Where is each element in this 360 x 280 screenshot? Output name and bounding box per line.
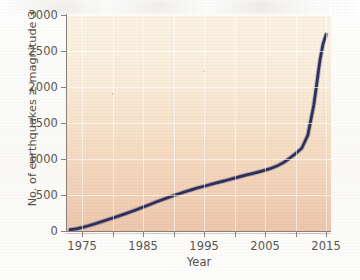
gridline-horizontal <box>67 123 331 124</box>
gridline-vertical <box>326 15 327 231</box>
gridline-horizontal <box>67 87 331 88</box>
x-axis-tick <box>113 232 114 237</box>
y-axis-tick <box>61 195 66 196</box>
gridline-vertical <box>143 15 144 231</box>
x-axis-tick <box>204 232 205 237</box>
gridline-vertical <box>82 15 83 231</box>
gridline-vertical <box>204 15 205 231</box>
x-axis-tick <box>296 232 297 237</box>
x-axis-tick <box>265 232 266 237</box>
gridline-vertical <box>265 15 266 231</box>
gridline-horizontal <box>67 15 331 16</box>
y-axis-tick <box>61 87 66 88</box>
x-axis-title: Year <box>139 255 259 269</box>
gridline-vertical <box>174 15 175 231</box>
x-axis-tick-label: 1995 <box>181 239 227 253</box>
gridline-vertical <box>296 15 297 231</box>
y-axis-title: No. of earthquakes ≥ magnitude 3 <box>26 0 39 219</box>
gridline-horizontal <box>67 195 331 196</box>
y-axis-tick-label: 0 <box>0 224 58 238</box>
x-axis-tick <box>235 232 236 237</box>
earthquake-cumulative-chart: 050010001500200025003000 197519851995200… <box>0 0 360 280</box>
x-axis-tick <box>326 232 327 237</box>
y-axis-line <box>66 14 67 232</box>
x-axis-color-fringe <box>66 233 331 234</box>
gridline-horizontal <box>67 51 331 52</box>
y-axis-tick <box>61 15 66 16</box>
gridline-horizontal <box>67 159 331 160</box>
x-axis-tick-label: 1975 <box>59 239 105 253</box>
y-axis-tick <box>61 159 66 160</box>
series-line-halo <box>70 34 326 229</box>
y-axis-tick <box>61 51 66 52</box>
x-axis-tick-label: 2005 <box>242 239 288 253</box>
plot-area <box>67 15 331 231</box>
x-axis-tick <box>174 232 175 237</box>
y-axis-tick <box>61 123 66 124</box>
x-axis-tick <box>143 232 144 237</box>
y-axis-tick <box>61 231 66 232</box>
x-axis-tick-label: 1985 <box>120 239 166 253</box>
x-axis-tick-label: 2015 <box>303 239 349 253</box>
gridline-vertical <box>235 15 236 231</box>
x-axis-tick <box>82 232 83 237</box>
gridline-vertical <box>113 15 114 231</box>
series-line-path <box>70 34 326 229</box>
